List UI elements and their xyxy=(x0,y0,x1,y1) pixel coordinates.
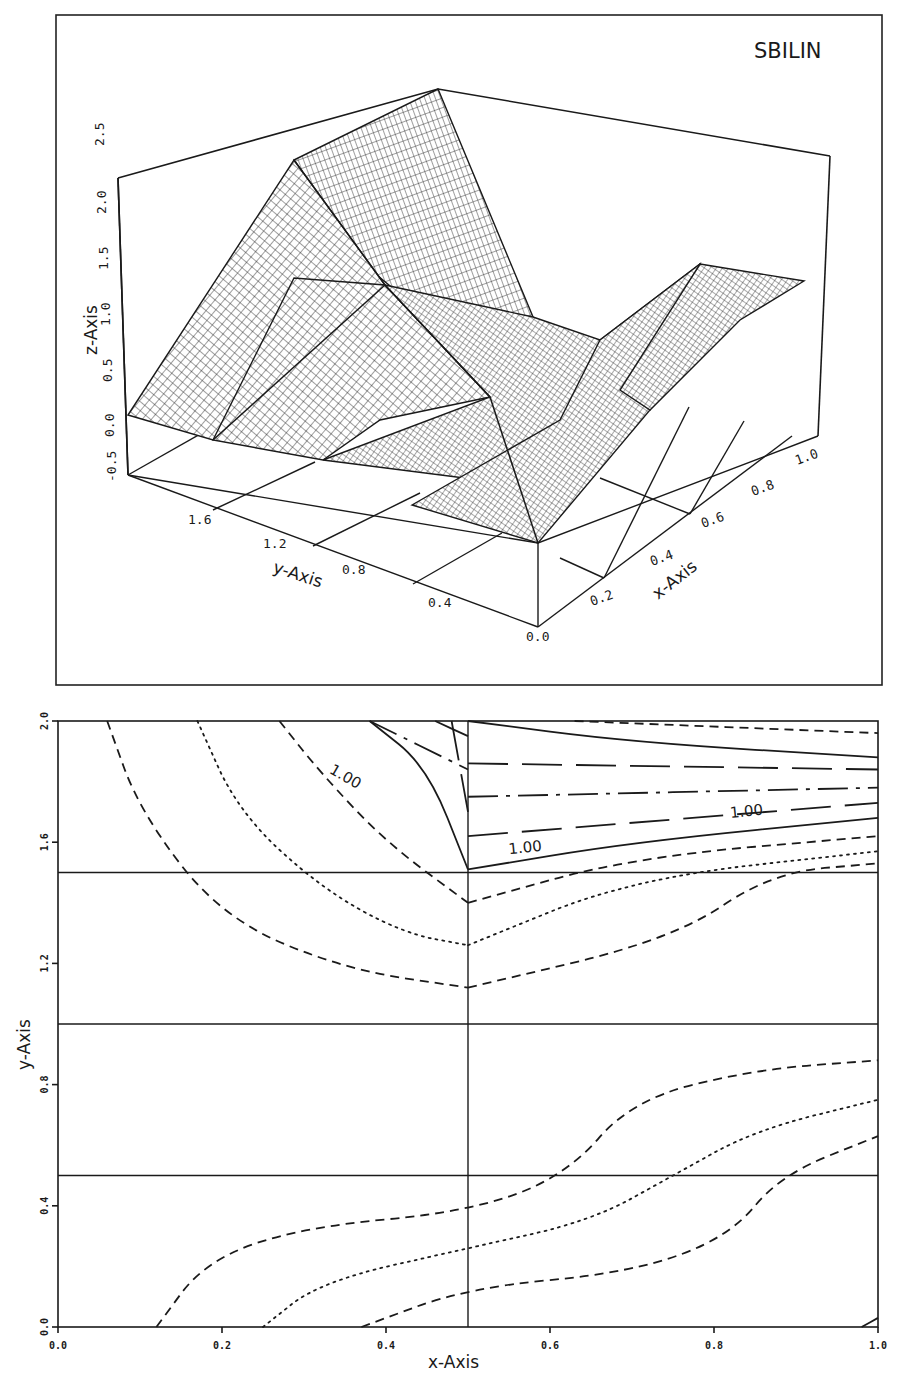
x-tick-label: 0.8 xyxy=(705,1340,723,1351)
contour-line xyxy=(862,1318,878,1327)
y-origin-label: 0.0 xyxy=(526,629,549,644)
contour-line xyxy=(468,788,878,797)
z-tick-label: 2.0 xyxy=(94,191,109,214)
y-tick-label: 0.8 xyxy=(342,562,365,577)
y-tick-label: 1.2 xyxy=(39,954,50,972)
chart-title: SBILIN xyxy=(754,39,822,63)
y-tick-label: 1.6 xyxy=(188,512,211,527)
y-tick-label: 1.2 xyxy=(263,536,286,551)
y-tick-label: 0.4 xyxy=(39,1197,50,1215)
z-tick-label: 2.5 xyxy=(92,123,107,146)
x-tick-label: 1.0 xyxy=(793,446,820,468)
x-tick-label: 0.0 xyxy=(49,1340,67,1351)
y-tick-label: 1.6 xyxy=(39,833,50,851)
x-tick-label: 0.8 xyxy=(749,477,776,499)
x-tick-label: 0.6 xyxy=(699,509,726,531)
contour-line xyxy=(575,721,878,733)
contour-line xyxy=(156,1060,878,1327)
contour-line xyxy=(197,721,468,945)
contour-line xyxy=(361,1136,878,1327)
y-tick-label: 0.4 xyxy=(428,595,452,610)
contour-line xyxy=(370,721,468,869)
contour-line xyxy=(468,721,878,757)
contour-line xyxy=(263,1100,878,1327)
x-axis-3d: 0.2 0.4 0.6 0.8 1.0 x-Axis xyxy=(588,446,820,609)
contour-line xyxy=(468,803,878,836)
y-axis-3d: 1.6 1.2 0.8 0.4 0.0 y-Axis xyxy=(188,512,549,644)
z-tick-label: 1.5 xyxy=(96,247,111,270)
contour-line xyxy=(468,763,878,769)
x-tick-label: 0.4 xyxy=(377,1340,395,1351)
contour-plot: 1.001.001.00 0.00.20.40.60.81.0 0.00.40.… xyxy=(14,712,887,1372)
contour-value-label: 1.00 xyxy=(729,801,764,822)
y-axis-title: y-Axis xyxy=(14,1019,34,1070)
surface-plot: SBILIN xyxy=(56,15,882,685)
x-tick-label: 0.4 xyxy=(648,547,675,569)
y-axis-title-3d: y-Axis xyxy=(271,557,326,592)
contour-value-label: 1.00 xyxy=(508,837,543,858)
x-axis-title: x-Axis xyxy=(428,1352,479,1372)
figure: SBILIN xyxy=(0,0,905,1390)
y-axis: 0.00.40.81.21.62.0 xyxy=(39,712,58,1336)
contour-value-label: 1.00 xyxy=(327,760,365,792)
z-axis-title: z-Axis xyxy=(81,305,101,355)
surface-mesh xyxy=(128,89,804,543)
z-tick-label: -0.5 xyxy=(104,451,119,482)
contour-line xyxy=(279,721,468,903)
x-tick-label: 0.2 xyxy=(213,1340,231,1351)
y-tick-label: 0.8 xyxy=(39,1076,50,1094)
x-tick-label: 1.0 xyxy=(869,1340,887,1351)
x-tick-label: 0.2 xyxy=(588,587,615,609)
contour-line xyxy=(468,863,878,987)
y-tick-label: 2.0 xyxy=(39,712,50,730)
z-tick-label: 0.5 xyxy=(100,359,115,382)
x-axis: 0.00.20.40.60.81.0 xyxy=(49,1327,887,1351)
y-tick-label: 0.0 xyxy=(39,1318,50,1336)
contour-line xyxy=(107,721,468,988)
x-tick-label: 0.6 xyxy=(541,1340,559,1351)
z-tick-label: 0.0 xyxy=(102,414,117,437)
